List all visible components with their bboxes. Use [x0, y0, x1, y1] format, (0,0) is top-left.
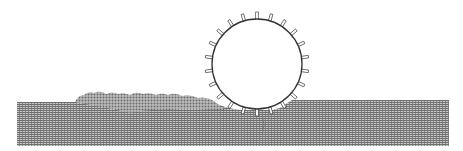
- wheel-rim: [212, 19, 302, 109]
- wheel-on-ground-diagram: [0, 0, 463, 151]
